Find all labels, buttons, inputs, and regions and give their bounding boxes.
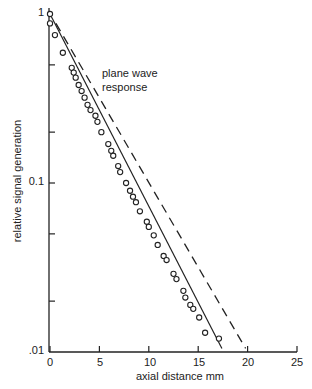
data-point (85, 102, 90, 107)
data-point (47, 21, 52, 26)
data-point (164, 257, 169, 262)
x-axis-label: axial distance mm (100, 370, 260, 382)
data-point (203, 330, 208, 335)
data-point (130, 194, 135, 199)
data-point (73, 75, 78, 80)
data-point (151, 233, 156, 238)
data-point (123, 180, 128, 185)
annotation-line-1: plane wave (102, 66, 158, 80)
data-point (76, 82, 81, 87)
data-point (47, 11, 52, 16)
data-point (79, 88, 84, 93)
data-point (171, 271, 176, 276)
fit-line (50, 14, 222, 348)
data-point (118, 170, 123, 175)
data-point (93, 113, 98, 118)
annotation-line-2: response (102, 80, 158, 94)
data-point (82, 95, 87, 100)
data-point (133, 200, 138, 205)
data-point (71, 70, 76, 75)
x-tick-label-0: 0 (38, 356, 62, 368)
data-point (191, 306, 196, 311)
data-point (197, 315, 202, 320)
data-point (116, 163, 121, 168)
data-point (137, 209, 142, 214)
y-tick-label-0.1: 0.1 (4, 175, 44, 187)
x-tick-label-20: 20 (236, 356, 260, 368)
data-point (216, 336, 221, 341)
plane-wave-annotation: plane wave response (102, 66, 158, 94)
plot-area (0, 0, 312, 389)
data-point (99, 130, 104, 135)
y-axis-label: relative signal generation (11, 106, 23, 256)
y-tick-label-1: 1 (4, 6, 44, 18)
data-point (88, 107, 93, 112)
data-point (146, 224, 151, 229)
y-tick-label-0.01: .01 (4, 344, 44, 356)
data-point (155, 242, 160, 247)
data-point (183, 295, 188, 300)
data-point (144, 219, 149, 224)
data-point (111, 153, 116, 158)
data-point (174, 276, 179, 281)
x-tick-label-10: 10 (138, 356, 162, 368)
data-point (60, 50, 65, 55)
x-tick-label-15: 15 (187, 356, 211, 368)
x-tick-label-25: 25 (285, 356, 309, 368)
x-tick-label-5: 5 (88, 356, 112, 368)
data-point (106, 141, 111, 146)
data-point (95, 119, 100, 124)
data-point (127, 188, 132, 193)
data-point (52, 33, 57, 38)
data-point (181, 288, 186, 293)
